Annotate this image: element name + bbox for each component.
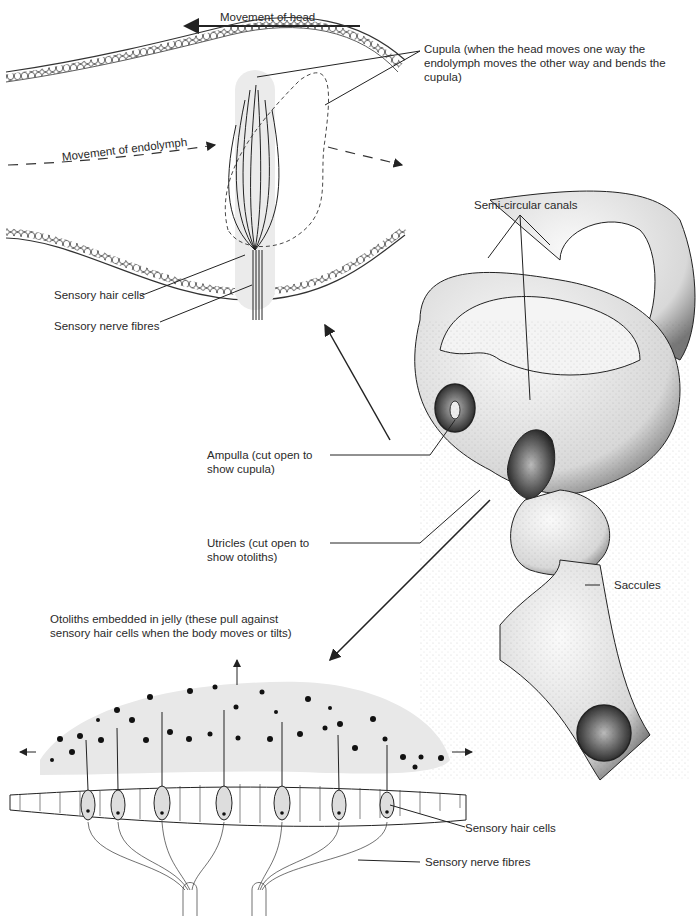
ampulla-section	[6, 18, 420, 322]
otoliths-label: Otoliths embedded in jelly (these pull a…	[50, 612, 320, 640]
ampulla-label: Ampulla (cut open to show cupula)	[207, 448, 329, 476]
ampulla-nerve-fibres-label: Sensory nerve fibres	[54, 319, 159, 333]
semicircular-canals-label: Semi-circular canals	[474, 198, 578, 212]
labyrinth-drawing	[325, 191, 695, 780]
endolymph-arrow-right	[328, 147, 402, 165]
macula-nerve-fibres-label: Sensory nerve fibres	[425, 855, 530, 869]
utricles-label: Utricles (cut open to show otoliths)	[207, 536, 329, 564]
inner-ear-illustration	[0, 0, 698, 916]
cupula-label: Cupula (when the head moves one way the …	[424, 42, 689, 84]
ampulla-hair-cells-label: Sensory hair cells	[54, 288, 145, 302]
macula-section	[10, 660, 472, 916]
otolith-jelly	[40, 682, 450, 775]
saccules-label: Saccules	[614, 578, 661, 592]
head-movement-label: Movement of head	[220, 10, 315, 24]
macula-hair-cells-label: Sensory hair cells	[465, 821, 556, 835]
arrow-to-ampulla	[325, 325, 390, 440]
